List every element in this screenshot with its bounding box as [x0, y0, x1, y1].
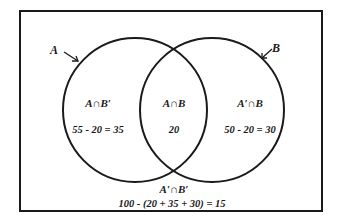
region-a-only-value: 55 - 20 = 35: [72, 124, 123, 135]
set-b-circle: [140, 38, 284, 182]
set-a-label: A: [49, 43, 58, 57]
set-b-arrow-icon: [262, 49, 272, 58]
region-neither-label: A′∩B′: [159, 183, 189, 195]
region-b-only-label: A′∩B: [236, 97, 263, 109]
region-both-label: A∩B: [162, 97, 186, 109]
venn-diagram: A B A∩B′ 55 - 20 = 35 A∩B 20 A′∩B 50 - 2…: [0, 0, 361, 224]
region-b-only-value: 50 - 20 = 30: [224, 124, 276, 135]
region-a-only-label: A∩B′: [84, 97, 111, 109]
set-a-arrow-icon: [64, 52, 78, 61]
region-both-value: 20: [168, 124, 180, 135]
set-a-circle: [63, 38, 207, 182]
set-b-label: B: [271, 41, 280, 55]
region-neither-value: 100 - (20 + 35 + 30) = 15: [118, 198, 225, 210]
